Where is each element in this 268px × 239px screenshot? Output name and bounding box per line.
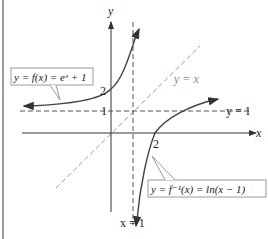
h-asymptote-label: y = 1 <box>226 104 251 118</box>
tick-y2: 2 <box>100 84 106 98</box>
v-asymptote-label: x = 1 <box>120 216 145 230</box>
tick-x2: 2 <box>153 137 159 151</box>
identity-line <box>56 46 200 188</box>
finv-label: y = f⁻¹(x) = ln(x − 1) <box>150 183 246 196</box>
tick-y1: 1 <box>101 104 107 118</box>
x-axis-label: x <box>255 126 262 140</box>
f-label: y = f(x) = eˣ + 1 <box>13 71 86 84</box>
finv-curve <box>137 100 213 220</box>
y-axis-label: y <box>107 4 114 18</box>
graph: y x 2 1 2 y = x y = 1 x = 1 y = f(x) = e… <box>0 0 268 239</box>
identity-label: y = x <box>173 72 199 86</box>
